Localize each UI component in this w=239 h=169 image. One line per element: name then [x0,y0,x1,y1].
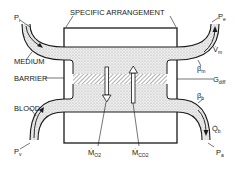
medium-outlet-tube [177,24,219,60]
blood-compartment [64,84,177,112]
v-m-label: V̇m [213,45,222,55]
barrier-layer [73,74,167,84]
gas-exchange-diagram: SPECIFIC ARRANGEMENT Pi MEDIUM BARRIER B… [0,0,239,169]
blood-outlet-tube [177,99,210,140]
medium-compartment [64,47,177,74]
medium-label: MEDIUM [14,57,44,66]
m-co2-label: ṀCO2 [132,148,149,158]
p-e-label: Pe [218,12,226,22]
beta-b-label: βb [197,91,204,101]
p-i-label: Pi [14,13,20,23]
blood-label: BLOOD [14,104,41,113]
p-a-label: Pa [216,148,224,158]
beta-m-label: βm [197,64,206,74]
medium-inlet-tube [22,24,64,60]
g-diff-label: Gdiff [213,75,226,85]
m-o2-label: ṀO2 [88,148,101,158]
q-b-label: Q̇b [212,124,221,134]
title-label: SPECIFIC ARRANGEMENT [70,8,165,17]
barrier-label: BARRIER [14,74,48,83]
